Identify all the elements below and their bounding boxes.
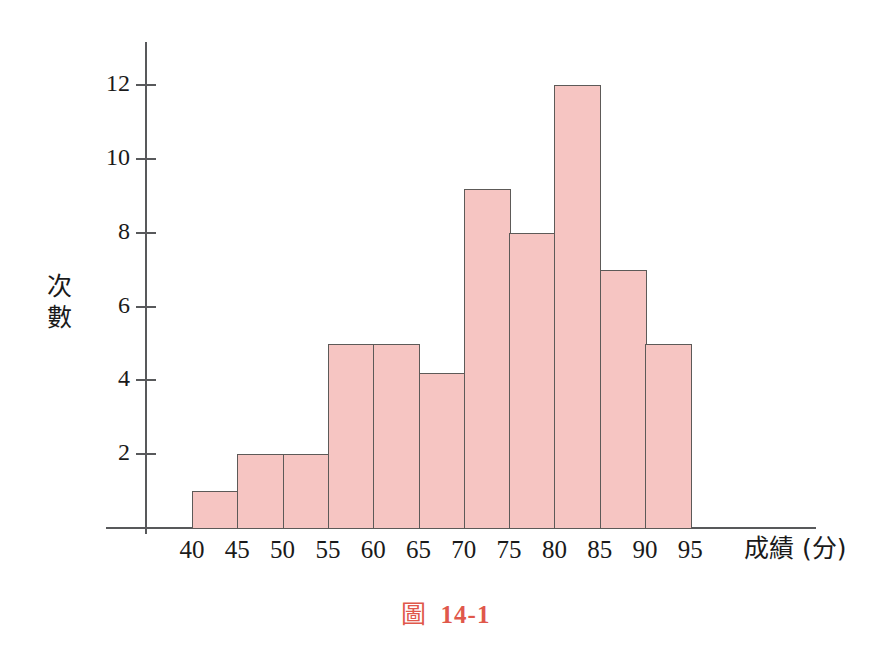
histogram-bar [192, 491, 239, 529]
y-axis-tick-label-text: 12 [92, 71, 130, 95]
x-axis-label: 成績 (分) [744, 534, 846, 564]
y-axis-tick-label-text: 6 [92, 293, 130, 317]
y-axis-tick-label: 6 [84, 293, 130, 319]
histogram-figure: 24681012 404550556065707580859095 次 數 成績… [0, 0, 891, 670]
y-axis-line [145, 42, 147, 534]
histogram-bar [645, 344, 692, 530]
figure-caption-prefix: 圖 [401, 600, 427, 629]
figure-caption: 圖14-1 [0, 594, 891, 630]
histogram-bar [600, 270, 647, 529]
y-axis-tick-label-text: 2 [92, 440, 130, 464]
y-axis-label-char-2: 數 [42, 303, 76, 334]
x-axis-tick-label: 95 [660, 536, 720, 564]
y-axis-tick-label: 12 [84, 71, 130, 97]
y-axis-tick-label-text: 4 [92, 366, 130, 390]
y-axis-tick-6 [136, 306, 156, 308]
y-axis-tick-label: 10 [84, 145, 130, 171]
histogram-bar [283, 454, 330, 529]
y-axis-tick-2 [136, 453, 156, 455]
histogram-bar [419, 373, 466, 529]
histogram-bar [464, 189, 511, 529]
y-axis-label: 次 數 [42, 272, 76, 333]
histogram-bar [328, 344, 375, 530]
y-axis-tick-8 [136, 232, 156, 234]
histogram-bar [373, 344, 420, 530]
histogram-bar [509, 233, 556, 529]
y-axis-tick-label-text: 8 [92, 219, 130, 243]
y-axis-label-char-1: 次 [42, 272, 76, 303]
plot-area: 24681012 404550556065707580859095 次 數 成績… [0, 0, 891, 670]
y-axis-tick-10 [136, 158, 156, 160]
y-axis-tick-label: 4 [84, 366, 130, 392]
y-axis-tick-12 [136, 84, 156, 86]
histogram-bar [554, 85, 601, 529]
y-axis-tick-label-text: 10 [92, 145, 130, 169]
histogram-bar [237, 454, 284, 529]
y-axis-tick-label: 8 [84, 219, 130, 245]
figure-caption-number: 14-1 [441, 601, 491, 628]
y-axis-tick-4 [136, 379, 156, 381]
y-axis-tick-label: 2 [84, 440, 130, 466]
